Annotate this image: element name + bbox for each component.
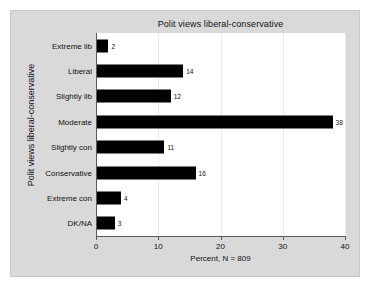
y-axis-tick-label: Liberal bbox=[68, 67, 92, 76]
bar bbox=[96, 65, 183, 78]
bar-value-label: 2 bbox=[108, 42, 115, 49]
x-axis-tick bbox=[158, 236, 159, 240]
y-axis-line bbox=[96, 33, 97, 236]
bar-value-label: 12 bbox=[171, 93, 181, 100]
bar-row: 14 bbox=[96, 58, 345, 83]
gridline bbox=[345, 33, 346, 236]
bar-value-label: 3 bbox=[115, 220, 122, 227]
bar-value-label: 16 bbox=[196, 169, 206, 176]
bar bbox=[96, 141, 164, 154]
bar-value-label: 14 bbox=[183, 68, 193, 75]
x-axis-tick-label: 20 bbox=[209, 242, 233, 251]
x-axis-tick-label: 30 bbox=[271, 242, 295, 251]
bar-value-label: 4 bbox=[121, 194, 128, 201]
y-axis-tick-label: Slightly lib bbox=[56, 92, 92, 101]
bar-row: 16 bbox=[96, 160, 345, 185]
bar-row: 4 bbox=[96, 185, 345, 210]
x-axis-tick-label: 0 bbox=[84, 242, 108, 251]
chart-title: Polit views liberal-conservative bbox=[96, 19, 345, 29]
bar-row: 38 bbox=[96, 109, 345, 134]
bar-row: 11 bbox=[96, 135, 345, 160]
chart-figure: Polit views liberal-conservative Polit v… bbox=[0, 0, 370, 287]
bar bbox=[96, 166, 196, 179]
y-axis-tick-label: Conservative bbox=[45, 168, 92, 177]
x-axis-tick bbox=[221, 236, 222, 240]
x-axis-tick bbox=[283, 236, 284, 240]
bar-value-label: 38 bbox=[333, 118, 343, 125]
bar-row: 2 bbox=[96, 33, 345, 58]
x-axis-tick-label: 10 bbox=[146, 242, 170, 251]
bar bbox=[96, 191, 121, 204]
y-axis-tick-label: Slightly con bbox=[51, 143, 92, 152]
bar-series: 2141238111643 bbox=[96, 33, 345, 236]
y-axis-tick-label: Extreme con bbox=[47, 193, 92, 202]
y-axis-tick-label: Moderate bbox=[58, 117, 92, 126]
bar bbox=[96, 217, 115, 230]
y-axis-title: Polit views liberal-conservative bbox=[26, 25, 36, 225]
bar bbox=[96, 90, 171, 103]
x-axis-tick-label: 40 bbox=[333, 242, 357, 251]
bar bbox=[96, 115, 333, 128]
x-axis-title: Percent, N = 809 bbox=[96, 254, 345, 263]
x-axis-tick bbox=[345, 236, 346, 240]
x-axis-tick bbox=[96, 236, 97, 240]
y-axis-tick-label: Extreme lib bbox=[52, 41, 92, 50]
bar bbox=[96, 39, 108, 52]
bar-row: 3 bbox=[96, 211, 345, 236]
y-axis-tick-label: DK/NA bbox=[68, 219, 92, 228]
bar-value-label: 11 bbox=[164, 144, 174, 151]
bar-row: 12 bbox=[96, 84, 345, 109]
